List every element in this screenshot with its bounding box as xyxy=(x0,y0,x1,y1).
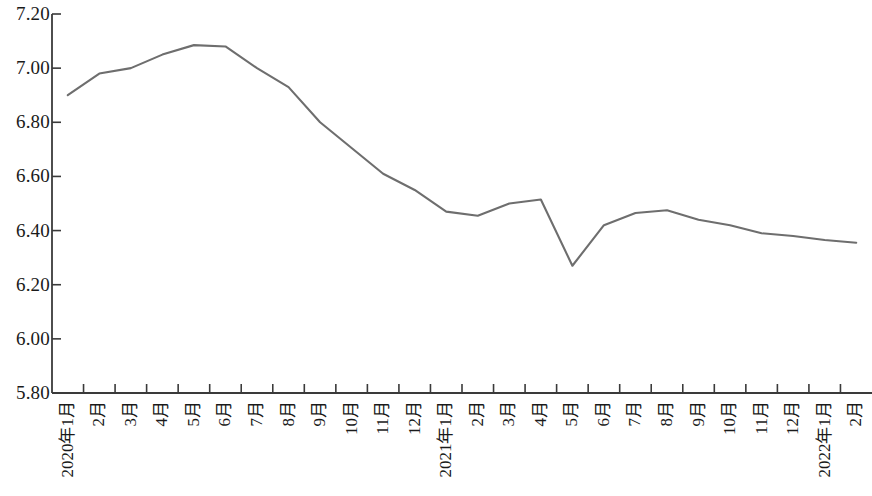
x-axis-tick-label: 11月 xyxy=(374,401,391,434)
x-axis-tick-label: 7月 xyxy=(626,401,643,427)
x-axis-tick-label: 9月 xyxy=(311,401,328,427)
x-axis-tick-label: 8月 xyxy=(280,401,297,427)
x-axis-tick-label: 5月 xyxy=(563,401,580,427)
x-axis-tick-label: 10月 xyxy=(343,401,360,435)
line-chart-figure: 7.207.006.806.606.406.206.005.80 2020年1月… xyxy=(0,0,872,496)
x-axis-tick-label: 3月 xyxy=(500,401,517,427)
x-axis-tick-label: 3月 xyxy=(122,401,139,427)
x-axis-tick-label: 6月 xyxy=(595,401,612,427)
x-axis-tick-label: 6月 xyxy=(216,401,233,427)
x-axis-tick-label: 12月 xyxy=(406,401,423,435)
x-axis-tick-label: 2月 xyxy=(847,401,864,427)
x-axis-tick-label: 2月 xyxy=(469,401,486,427)
x-axis-tick-label: 2月 xyxy=(90,401,107,427)
x-axis-tick-label: 7月 xyxy=(248,401,265,427)
x-axis-tick-label: 8月 xyxy=(658,401,675,427)
x-axis-tick-label: 9月 xyxy=(690,401,707,427)
x-axis-tick-label: 4月 xyxy=(153,401,170,427)
x-axis-labels: 2020年1月2月3月4月5月6月7月8月9月10月11月12月2021年1月2… xyxy=(0,0,872,496)
x-axis-tick-label: 2022年1月 xyxy=(816,401,833,478)
x-axis-tick-label: 2021年1月 xyxy=(437,401,454,478)
x-axis-tick-label: 4月 xyxy=(532,401,549,427)
x-axis-tick-label: 12月 xyxy=(784,401,801,435)
x-axis-tick-label: 10月 xyxy=(721,401,738,435)
x-axis-tick-label: 2020年1月 xyxy=(59,401,76,478)
x-axis-tick-label: 5月 xyxy=(185,401,202,427)
x-axis-tick-label: 11月 xyxy=(753,401,770,434)
